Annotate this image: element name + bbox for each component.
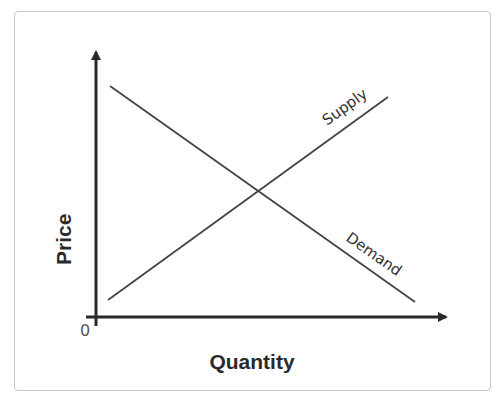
supply-label: Supply (319, 85, 371, 130)
y-axis-label: Price (52, 214, 75, 265)
x-axis-label: Quantity (209, 350, 294, 373)
supply-curve (108, 97, 388, 300)
origin-label: 0 (80, 321, 90, 340)
demand-curve (110, 86, 415, 302)
supply-demand-diagram: Supply Demand Price Quantity 0 (0, 0, 501, 403)
